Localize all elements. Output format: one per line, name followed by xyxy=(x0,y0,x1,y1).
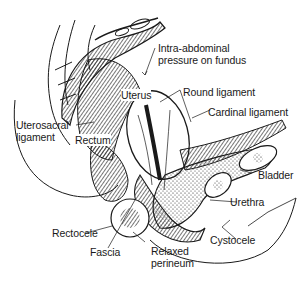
label-rectum: Rectum xyxy=(75,134,111,146)
anatomy-figure: Intra-abdominal pressure on fundus Uteru… xyxy=(0,0,306,281)
label-fascia: Fascia xyxy=(90,246,120,258)
label-cardinal-ligament: Cardinal ligament xyxy=(208,106,288,118)
label-intra-abdominal-line2: pressure on fundus xyxy=(158,54,246,66)
label-relaxed-line1: Relaxed xyxy=(151,245,189,257)
label-urethra: Urethra xyxy=(230,196,264,208)
label-cystocele: Cystocele xyxy=(210,234,255,246)
label-uterosacral-line1: Uterosacral xyxy=(16,119,69,131)
label-round-ligament: Round ligament xyxy=(183,86,255,98)
label-intra-abdominal-line1: Intra-abdominal xyxy=(158,42,229,54)
label-uterosacral-line2: ligament xyxy=(16,131,55,143)
label-uterus: Uterus xyxy=(121,89,151,101)
label-bladder: Bladder xyxy=(258,169,294,181)
label-rectocele: Rectocele xyxy=(52,227,98,239)
label-relaxed-line2: perineum xyxy=(151,257,194,269)
